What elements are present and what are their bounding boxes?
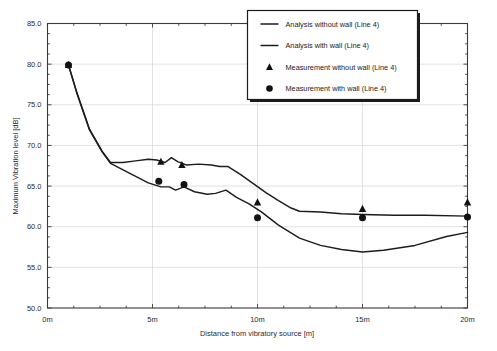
- y-tick-label: 80.0: [27, 60, 42, 69]
- legend-item-label: Analysis without wall (Line 4): [286, 20, 380, 29]
- legend-item-label: Measurement with wall (Line 4): [286, 84, 387, 93]
- y-tick-label: 65.0: [27, 182, 42, 191]
- x-tick-label: 20m: [460, 315, 475, 324]
- chart-legend[interactable]: Analysis without wall (Line 4)Analysis w…: [248, 11, 421, 103]
- y-tick-label: 75.0: [27, 100, 42, 109]
- circle-marker: [65, 61, 72, 68]
- y-axis-title: Maximum Vibration level [dB]: [11, 118, 20, 215]
- x-tick-label: 15m: [355, 315, 370, 324]
- y-tick-label: 50.0: [27, 304, 42, 313]
- y-tick-label: 85.0: [27, 19, 42, 28]
- x-tick-label: 0m: [42, 315, 52, 324]
- circle-marker: [181, 181, 188, 188]
- legend-item-label: Analysis with wall (Line 4): [286, 41, 370, 50]
- x-tick-label: 5m: [147, 315, 157, 324]
- circle-marker: [464, 213, 471, 220]
- circle-marker: [254, 214, 261, 221]
- chart-canvas: 50.055.060.065.070.075.080.085.0 0m5m10m…: [0, 0, 497, 351]
- y-tick-label: 55.0: [27, 263, 42, 272]
- circle-marker: [359, 214, 366, 221]
- vibration-level-chart-figure: 50.055.060.065.070.075.080.085.0 0m5m10m…: [0, 0, 497, 351]
- legend-circle-swatch: [266, 85, 273, 92]
- x-axis-title: Distance from vibratory source [m]: [200, 329, 314, 338]
- y-tick-label: 70.0: [27, 141, 42, 150]
- y-tick-label: 60.0: [27, 222, 42, 231]
- legend-item-label: Measurement without wall (Line 4): [286, 63, 397, 72]
- x-tick-label: 10m: [250, 315, 265, 324]
- circle-marker: [155, 178, 162, 185]
